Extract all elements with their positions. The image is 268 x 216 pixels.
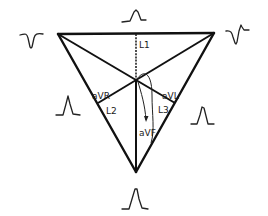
- waveform-avr-top-left: [20, 34, 43, 48]
- triangle-top-edge: [58, 33, 214, 34]
- waveform-l2-left: [56, 96, 80, 115]
- label-avf: aVF: [139, 128, 156, 138]
- einthoven-triangle-diagram: L1 aVR aVL L2 L3 aVF: [0, 0, 268, 216]
- label-l3: L3: [158, 105, 169, 115]
- label-avl: aVL: [162, 91, 179, 101]
- lead-axes: [58, 33, 214, 172]
- waveform-l1-top: [122, 10, 146, 22]
- arrowhead-icon: [144, 116, 149, 122]
- waveform-avf-bottom: [122, 189, 148, 209]
- axis-curve-left: [138, 82, 146, 120]
- label-l1: L1: [139, 40, 150, 50]
- waveform-avl-top-right: [226, 25, 249, 44]
- label-l2: L2: [106, 106, 117, 116]
- waveform-l3-right: [191, 107, 214, 124]
- label-avr: aVR: [92, 91, 110, 101]
